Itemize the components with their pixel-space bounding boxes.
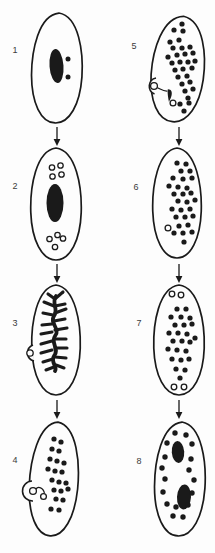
diagram-svg [0,0,215,553]
arrow-down-6 [176,400,183,419]
arrowhead-icon [54,276,61,283]
stage-8-label: 8 [133,456,145,466]
chromatin-granule [175,198,180,203]
chromatin-granule [170,338,175,343]
micronucleus-circle [59,172,64,177]
micronucleus-circle [30,488,37,495]
chromatin-granule [192,197,197,202]
chromatin-granule [180,191,185,196]
chromatin-granule [186,100,191,105]
chromatin-granule [179,45,184,50]
chromatin-granule [179,81,184,86]
micronucleus-circle [171,384,177,390]
micronucleus-circle [181,384,187,390]
stage-7-label: 7 [133,318,145,328]
chromatin-granule [180,514,185,519]
chromatin-granule [177,375,182,380]
arrow-down-4 [176,264,183,283]
micronucleus-circle [49,165,54,170]
stage-8-cell [153,421,208,537]
micronucleus-circle [27,350,33,356]
micronucleus-circle [55,232,60,237]
chromatin-granule [162,476,167,481]
chromatin-granule [189,321,194,326]
micronucleus-circle [169,291,175,297]
stage-3-cell [27,285,81,395]
arrow-down-5 [54,400,61,419]
chromatin-granule [180,66,185,71]
chromatin-granule [178,357,183,362]
chromatin-granule [166,330,171,335]
chromatin-granule [181,108,186,113]
chromatin-granule [175,74,180,79]
micronucleus-circle [178,292,184,298]
stage-5-label: 5 [128,41,140,51]
arrowhead-icon [176,276,183,283]
chromatin-granule [169,60,174,65]
chromatin-granule [169,206,174,211]
chromatin-granule [56,448,61,453]
chromatin-granule [174,306,179,311]
chromatin-granule [170,513,175,518]
chromatin-granule [180,28,185,33]
cell-nuclear-division-diagram: 1 2 3 4 5 6 7 8 [0,0,215,553]
arrowhead-icon [54,139,61,146]
stage-7-cell [154,285,205,395]
chromatin-granule [180,176,185,181]
chromatin-granule [179,21,184,26]
chromatin-granule [174,347,179,352]
chromatin-granule [176,37,181,42]
arrowhead-icon [54,412,61,419]
micronucleus-circle [58,163,63,168]
chromatin-granule [172,430,177,435]
chromatin-granule [170,175,175,180]
chromatin-granule [187,339,192,344]
chromatin-granule [187,44,192,49]
micronucleus-circle [170,100,176,106]
stage-3-label: 3 [9,318,21,328]
chromatin-granule [49,446,54,451]
chromatin-granule [189,175,194,180]
chromatin-granule [189,229,194,234]
stage-2-cell [31,148,82,260]
arrowhead-icon [176,139,183,146]
chromatin-granule [183,432,188,437]
chromatin-granule [160,489,165,494]
chromatin-granule [173,214,178,219]
micronucleus-circle [165,225,171,231]
chromatin-granule [189,441,194,446]
chromatin-granule [169,356,174,361]
chromatin-granule [56,507,61,512]
chromatin-granule [178,207,183,212]
stage-1-cell [30,12,84,124]
chromatin-granule [171,27,176,32]
macronucleus [47,184,64,222]
chromatin-granule [171,191,176,196]
chromatin-granule [189,65,194,70]
arrow-down-1 [54,127,61,146]
chromatin-granule [188,190,193,195]
chromatin-granule [182,367,187,372]
micronucleus-circle [52,244,57,249]
chromatin-granule [165,346,170,351]
chromatin-granule [182,88,187,93]
chromatin-granule [182,51,187,56]
chromatin-granule [183,161,188,166]
chromatin-granule [167,39,172,44]
chromatin-granule [54,458,59,463]
chromatin-granule [58,488,63,493]
chromatin-granule [184,199,189,204]
cell-membrane-outline [146,14,209,125]
chromatin-granule [170,45,175,50]
chromatin-granule [185,59,190,64]
stage-1-label: 1 [9,45,21,55]
chromatin-granule [51,436,56,441]
arrowhead-icon [176,412,183,419]
arrow-down-3 [54,264,61,283]
chromatin-granule [184,73,189,78]
chromatin-granule [183,348,188,353]
micronucleus-circle [60,236,65,241]
chromatin-granule [58,439,63,444]
chromatin-granule [173,504,178,509]
micronucleus-circle [50,174,55,179]
